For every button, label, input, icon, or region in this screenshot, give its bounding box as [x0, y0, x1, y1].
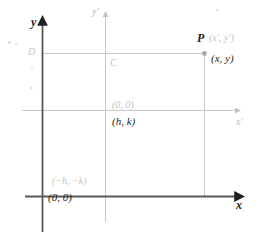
original-origin-label: (0, 0) [48, 192, 72, 203]
original-origin-in-translated-label: (−h, −k) [52, 176, 87, 186]
scan-speck [216, 9, 219, 11]
translation-of-axes-figure: y x y′ x′ D C P (x′, y′) (x, y) (0, 0) (… [0, 0, 258, 236]
scan-speck [31, 66, 33, 68]
x-axis-label: x [236, 199, 242, 211]
translated-origin-label: (0, 0) [112, 100, 134, 110]
point-d-label: D [28, 47, 35, 57]
point-p-translated-coords: (x′, y′) [209, 33, 234, 43]
scan-speck [15, 43, 17, 45]
point-c-label: C [110, 58, 117, 68]
point-p-label: P [197, 32, 204, 44]
y-prime-axis-label: y′ [92, 7, 99, 17]
point-p-marker [202, 51, 207, 56]
translated-origin-in-original-label: (h, k) [112, 116, 135, 127]
scan-speck [30, 87, 33, 89]
x-prime-axis-label: x′ [236, 117, 243, 127]
scan-speck [8, 41, 11, 44]
point-p-original-coords: (x, y) [211, 53, 234, 64]
y-axis-label: y [31, 16, 36, 28]
